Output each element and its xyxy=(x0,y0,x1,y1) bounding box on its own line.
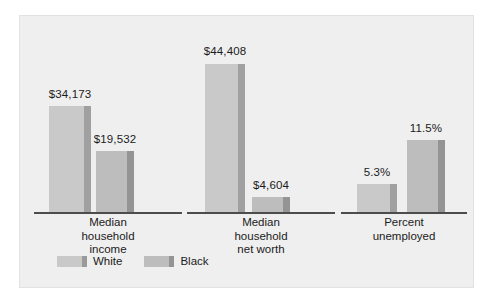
bar-group-1-white xyxy=(49,106,91,212)
swatch-edge xyxy=(82,256,87,267)
bar-group-1-black xyxy=(96,151,134,212)
group-label-line: Percent xyxy=(319,216,489,230)
bar-value-group-1-white: $34,173 xyxy=(10,88,130,100)
legend-label-black: Black xyxy=(180,255,208,267)
bar-group-2-black xyxy=(252,197,290,212)
group-label-line: household xyxy=(23,230,193,244)
bar-edge xyxy=(283,197,290,212)
swatch-face xyxy=(144,256,169,267)
legend: White Black xyxy=(57,255,209,267)
group-label-line: Median xyxy=(23,216,193,230)
bar-face xyxy=(357,184,390,212)
group-label-median-household-income: Median household income xyxy=(23,216,193,257)
bar-edge xyxy=(84,106,91,212)
axis-rule-group-1 xyxy=(34,212,182,214)
chart-root: $34,173 $19,532 Median household income … xyxy=(0,0,492,302)
group-label-percent-unemployed: Percent unemployed xyxy=(319,216,489,243)
bar-edge xyxy=(390,184,397,212)
legend-swatch-white-icon xyxy=(57,256,87,267)
bar-value-group-2-black: $4,604 xyxy=(211,179,331,191)
bar-edge xyxy=(127,151,134,212)
bar-face xyxy=(252,197,283,212)
axis-rule-group-3 xyxy=(341,212,467,214)
bar-group-3-white xyxy=(357,184,397,212)
bar-value-group-1-black: $19,532 xyxy=(55,133,175,145)
legend-item-black[interactable]: Black xyxy=(144,255,208,267)
bar-group-3-black xyxy=(407,140,445,212)
bar-face xyxy=(49,106,84,212)
legend-label-white: White xyxy=(93,255,122,267)
figure-plate: $34,173 $19,532 Median household income … xyxy=(19,15,474,288)
legend-swatch-black-icon xyxy=(144,256,174,267)
bar-value-group-3-black: 11.5% xyxy=(366,122,486,134)
group-label-line: unemployed xyxy=(319,230,489,244)
bar-face xyxy=(407,140,438,212)
bar-value-group-2-white: $44,408 xyxy=(165,45,285,57)
axis-rule-group-2 xyxy=(187,212,335,214)
swatch-edge xyxy=(169,256,174,267)
bar-face xyxy=(96,151,127,212)
swatch-face xyxy=(57,256,82,267)
plot-area: $34,173 $19,532 Median household income … xyxy=(20,16,475,289)
bar-edge xyxy=(438,140,445,212)
legend-item-white[interactable]: White xyxy=(57,255,122,267)
